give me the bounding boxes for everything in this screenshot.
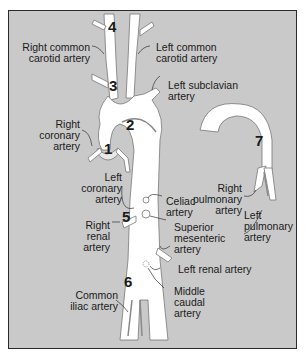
label-number-1: 1	[104, 140, 112, 157]
label-right-coronary-artery: Right coronary artery	[30, 119, 80, 152]
label-number-6: 6	[124, 273, 132, 290]
label-common-iliac-artery: Common iliac artery	[40, 290, 118, 312]
label-right-common-carotid-artery: Right common carotid artery	[18, 42, 90, 64]
label-left-coronary-artery: Left coronary artery	[70, 172, 122, 205]
label-right-renal-artery: Right renal artery	[60, 220, 110, 253]
carotid-vessels	[92, 14, 154, 100]
label-number-2: 2	[126, 116, 134, 133]
label-right-pulmonary-artery: Right pulmonary artery	[190, 183, 242, 216]
label-middle-caudal-artery: Middle caudal artery	[174, 286, 205, 319]
label-left-renal-artery: Left renal artery	[178, 264, 252, 275]
label-left-subclavian-artery: Left subclavian artery	[168, 80, 238, 102]
label-number-4: 4	[108, 18, 116, 35]
label-superior-mesenteric-artery: Superior mesenteric artery	[174, 222, 225, 255]
label-left-common-carotid-artery: Left common carotid artery	[156, 42, 217, 64]
label-number-7: 7	[255, 132, 263, 149]
label-number-5: 5	[122, 208, 130, 225]
label-left-pulmonary-artery: Left pulmonary artery	[244, 210, 293, 243]
label-number-3: 3	[109, 77, 117, 94]
